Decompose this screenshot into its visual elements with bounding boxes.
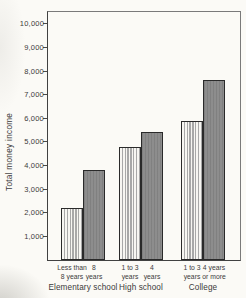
y-tick-label: 2,000 bbox=[0, 208, 44, 217]
y-tick-label: 10,000 bbox=[0, 19, 44, 28]
y-tick-label: 9,000 bbox=[0, 43, 44, 52]
bar-elementary-school-0 bbox=[61, 208, 83, 260]
y-tick-label: 4,000 bbox=[0, 161, 44, 170]
y-tick-label: 1,000 bbox=[0, 232, 44, 241]
y-tick-label: 6,000 bbox=[0, 114, 44, 123]
y-axis-title: Total money income bbox=[5, 113, 14, 191]
plot-area: 1,0002,0003,0004,0005,0006,0007,0008,000… bbox=[47, 11, 241, 261]
y-tick-label: 8,000 bbox=[0, 67, 44, 76]
bar-elementary-school-1 bbox=[83, 170, 105, 260]
y-tick-label: 7,000 bbox=[0, 90, 44, 99]
bar-college-1 bbox=[203, 80, 225, 260]
bar-chart: Total money income 1,0002,0003,0004,0005… bbox=[0, 0, 246, 298]
y-tick-label: 5,000 bbox=[0, 137, 44, 146]
bar-label-college-1: 4 years or more bbox=[191, 264, 237, 281]
group-label-college: College bbox=[155, 283, 246, 292]
y-tick-label: 3,000 bbox=[0, 185, 44, 194]
bar-high-school-0 bbox=[119, 147, 141, 260]
bar-high-school-1 bbox=[141, 132, 163, 260]
bar-college-0 bbox=[181, 121, 203, 260]
